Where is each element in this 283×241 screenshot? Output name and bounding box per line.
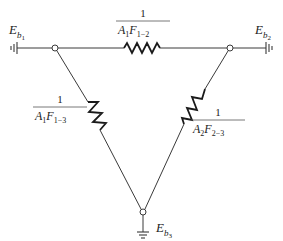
svg-text:A1F1−2: A1F1−2 [117, 23, 149, 39]
label-eb2: Eb2 [254, 22, 271, 42]
wire-node2-to-r23 [205, 51, 228, 89]
svg-text:A1F1−3: A1F1−3 [34, 109, 66, 125]
resistor-r12 [124, 43, 160, 53]
ground-icon-bottom [137, 232, 149, 238]
ground-icon-right [266, 42, 272, 54]
label-r13: 1 A1F1−3 [33, 93, 87, 125]
ground-icon-left [11, 42, 17, 54]
svg-text:1: 1 [57, 93, 63, 105]
resistor-r23 [182, 89, 205, 124]
svg-text:1: 1 [140, 7, 146, 19]
node-eb2 [227, 45, 233, 51]
resistor-r13 [88, 102, 106, 130]
radiation-network-diagram: Eb1 Eb2 Eb3 1 A1F1−2 1 A1F1−3 1 A2F2−3 [0, 0, 283, 241]
wire-r23-to-node3 [145, 124, 184, 209]
label-r23: 1 A2F2−3 [191, 106, 245, 138]
label-eb3: Eb3 [155, 220, 172, 240]
wire-r13-to-node3 [100, 130, 141, 209]
label-r12: 1 A1F1−2 [116, 7, 170, 39]
node-eb1 [52, 45, 58, 51]
node-eb3 [140, 209, 146, 215]
svg-text:1: 1 [215, 106, 221, 118]
label-eb1: Eb1 [8, 22, 25, 42]
svg-text:A2F2−3: A2F2−3 [192, 122, 224, 138]
